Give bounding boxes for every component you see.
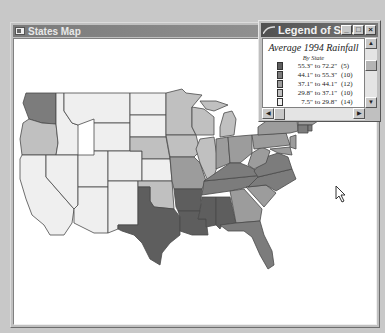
state-north-dakota (130, 93, 166, 115)
legend-entry: 7.5" to 29.8" (14) (277, 97, 353, 106)
state-connecticut (298, 125, 308, 133)
scroll-down-button[interactable]: ▼ (365, 97, 377, 108)
legend-entries: 55.3" to 72.2" (5) 44.1" to 55.3" (10) 3… (277, 62, 353, 106)
state-michigan (220, 111, 236, 137)
state-south-dakota (130, 115, 166, 137)
legend-count: (10) (341, 89, 353, 97)
legend-range: 37.1" to 44.1" (291, 80, 337, 88)
main-window-title: States Map (28, 26, 81, 37)
legend-swatch (277, 71, 283, 79)
legend-range: 44.1" to 55.3" (291, 71, 337, 79)
arrow-cursor-icon (335, 185, 347, 203)
state-rhode-island (308, 125, 312, 131)
legend-subheading: By State (263, 54, 364, 61)
legend-content: Average 1994 Rainfall By State 55.3" to … (262, 38, 365, 108)
legend-entry: 29.8" to 37.1" (10) (277, 88, 353, 97)
legend-swatch (277, 89, 283, 97)
legend-swatch (277, 80, 283, 88)
state-colorado (108, 151, 142, 181)
legend-horizontal-scrollbar[interactable]: ◀ ▶ (262, 108, 365, 120)
state-new-jersey (290, 135, 296, 149)
legend-count: (10) (341, 71, 353, 79)
state-oregon (20, 119, 58, 155)
state-wyoming (94, 123, 130, 151)
scroll-right-button[interactable]: ▶ (353, 108, 365, 119)
state-arkansas (174, 189, 202, 211)
legend-count: (5) (341, 62, 349, 70)
legend-vertical-scrollbar[interactable]: ▲ ▼ (365, 38, 377, 108)
legend-range: 7.5" to 29.8" (291, 98, 337, 106)
legend-entry: 44.1" to 55.3" (10) (277, 71, 353, 80)
legend-window-icon[interactable] (263, 26, 275, 34)
legend-count: (12) (341, 80, 353, 88)
state-maryland (270, 147, 292, 155)
map-window-icon[interactable] (15, 27, 25, 35)
vertical-scroll-thumb[interactable] (365, 60, 377, 71)
scroll-up-button[interactable]: ▲ (365, 38, 377, 49)
state-arizona (74, 187, 108, 233)
legend-swatch (277, 98, 283, 106)
state-ohio (228, 135, 252, 163)
state-montana (64, 93, 130, 125)
scroll-left-button[interactable]: ◀ (262, 108, 274, 119)
maximize-button[interactable]: □ (353, 25, 364, 35)
state-iowa (166, 135, 200, 157)
state-utah (78, 151, 108, 187)
legend-swatch (277, 62, 283, 70)
legend-entry: 55.3" to 72.2" (5) (277, 62, 353, 71)
legend-heading: Average 1994 Rainfall (263, 42, 364, 53)
state-wisconsin (192, 107, 214, 135)
state-kansas (142, 159, 172, 181)
minimize-button[interactable]: _ (341, 25, 352, 35)
close-button[interactable]: × (365, 25, 376, 35)
legend-title-bar[interactable]: Legend of St... _ □ × (261, 23, 378, 37)
legend-entry: 37.1" to 44.1" (12) (277, 80, 353, 89)
horizontal-scroll-thumb[interactable] (274, 108, 285, 120)
legend-count: (14) (341, 98, 353, 106)
state-florida (220, 221, 274, 269)
legend-range: 29.8" to 37.1" (291, 89, 337, 97)
legend-window[interactable]: Legend of St... _ □ × Average 1994 Rainf… (258, 20, 381, 122)
legend-range: 55.3" to 72.2" (291, 62, 337, 70)
